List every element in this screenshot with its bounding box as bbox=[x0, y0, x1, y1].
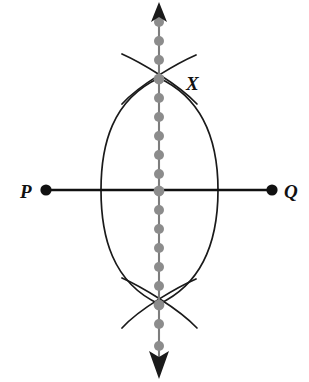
bisector-dot bbox=[154, 74, 165, 85]
bisector-dot bbox=[154, 55, 164, 65]
bisector-dot bbox=[154, 93, 164, 103]
bisector-dot bbox=[154, 224, 164, 234]
point-P-dot bbox=[40, 184, 51, 195]
bisector-dot bbox=[154, 131, 164, 141]
label-P: P bbox=[19, 181, 32, 202]
bisector-dot bbox=[154, 341, 164, 351]
point-Q-dot bbox=[266, 184, 277, 195]
bisector-dot bbox=[154, 205, 164, 215]
bisector-dot bbox=[154, 186, 165, 197]
bisector-dot bbox=[154, 300, 165, 311]
geometry-diagram: P Q X bbox=[0, 0, 309, 382]
bisector-dot bbox=[154, 243, 164, 253]
bisector-dot bbox=[154, 36, 164, 46]
bisector-dot bbox=[154, 112, 164, 122]
bisector-dot bbox=[154, 262, 164, 272]
label-X: X bbox=[185, 73, 200, 94]
label-Q: Q bbox=[284, 181, 298, 202]
bisector-dot bbox=[154, 150, 164, 160]
bisector-dot bbox=[154, 319, 164, 329]
bisector-dot bbox=[154, 169, 164, 179]
construction-canvas: P Q X bbox=[0, 0, 309, 382]
bisector-dot bbox=[154, 281, 164, 291]
